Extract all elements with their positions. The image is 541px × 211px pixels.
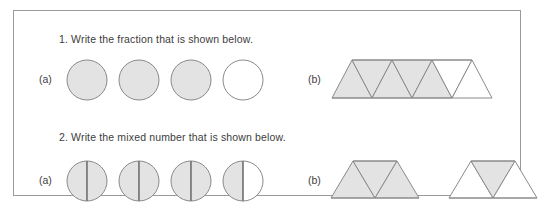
circle-shape-shaded — [170, 59, 212, 101]
question-1-part-a-label: (a) — [39, 73, 52, 85]
question-2-part-a-circles — [66, 160, 264, 202]
question-1-part-b-triangle-strip — [327, 56, 502, 100]
circle-split-shape-full — [66, 160, 108, 202]
circle-shape-empty — [222, 59, 264, 101]
circle-split-shape-half — [222, 160, 264, 202]
question-1-prompt: 1. Write the fraction that is shown belo… — [59, 33, 253, 45]
circle-split-shape-full — [170, 160, 212, 202]
worksheet-panel: 1. Write the fraction that is shown belo… — [13, 10, 521, 196]
trapezoid-shape-partial — [445, 157, 541, 201]
circle-shape-shaded — [118, 59, 160, 101]
question-2-part-b-trapezoids — [327, 157, 541, 201]
circle-split-shape-full — [118, 160, 160, 202]
question-2-prompt: 2. Write the mixed number that is shown … — [59, 131, 286, 143]
trapezoid-shape-full — [327, 157, 423, 201]
question-1-part-a-circles — [66, 59, 264, 101]
circle-shape-shaded — [66, 59, 108, 101]
question-1-part-b-label: (b) — [308, 73, 321, 85]
triangle-strip-shape — [327, 56, 502, 100]
question-2-part-b-label: (b) — [308, 174, 321, 186]
question-2-part-a-label: (a) — [39, 174, 52, 186]
